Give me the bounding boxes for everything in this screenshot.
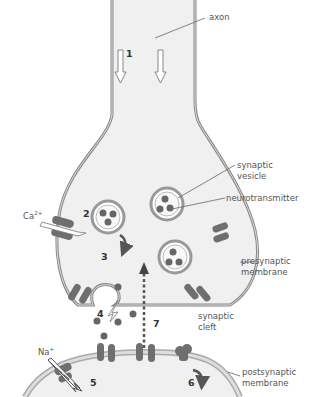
axon-label: axon (209, 12, 230, 23)
step-5: 5 (90, 377, 97, 388)
presynaptic-terminal (57, 0, 258, 305)
step-1: 1 (126, 48, 133, 59)
calcium-ion-label: Ca2+ (23, 210, 42, 221)
presynaptic-membrane-label: presynaptic membrane (241, 256, 291, 278)
synaptic-cleft-label: synaptic cleft (198, 311, 234, 333)
synaptic-vesicle-label: synaptic vesicle (237, 160, 273, 182)
synaptic-vesicle (151, 188, 183, 220)
postsynaptic-membrane-label: postsynaptic membrane (242, 367, 296, 389)
step-3: 3 (101, 251, 108, 262)
neurotransmitter-label: neurotransmitter (226, 193, 298, 204)
diffusion-arrow (108, 300, 118, 322)
sodium-ion-label: Na+ (38, 346, 54, 357)
step-2: 2 (83, 208, 90, 219)
synaptic-vesicle (92, 201, 124, 233)
step-7: 7 (153, 318, 160, 329)
synaptic-vesicle (159, 241, 191, 273)
step-4: 4 (97, 308, 104, 319)
step-6: 6 (188, 377, 195, 388)
